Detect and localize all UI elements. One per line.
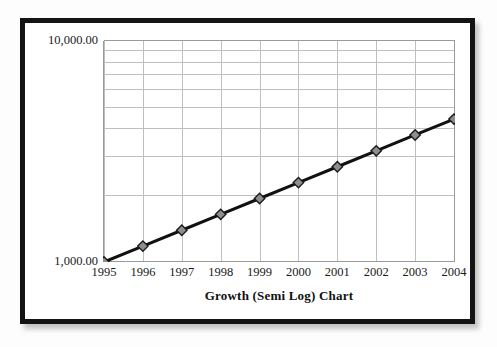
data-point-marker bbox=[449, 114, 455, 124]
chart-title: Growth (Semi Log) Chart bbox=[103, 288, 455, 304]
data-point-marker bbox=[254, 193, 264, 203]
data-line bbox=[104, 119, 454, 262]
x-axis-tick-labels: 1995199619971998199920002001200220032004 bbox=[103, 265, 455, 283]
data-point-marker bbox=[410, 130, 420, 140]
y-axis-tick-label-top: 10,000.00 bbox=[6, 33, 98, 48]
plot-area bbox=[103, 40, 455, 262]
data-point-marker bbox=[215, 209, 225, 219]
data-point-marker bbox=[177, 225, 187, 235]
plot-axis-frame bbox=[104, 41, 455, 262]
minor-gridlines bbox=[103, 51, 455, 196]
data-point-marker bbox=[138, 241, 148, 251]
plot-svg bbox=[103, 40, 455, 262]
x-axis-tick-label: 2004 bbox=[431, 265, 477, 280]
vertical-gridlines bbox=[105, 40, 455, 262]
data-point-marker bbox=[371, 146, 381, 156]
data-point-marker bbox=[332, 162, 342, 172]
data-point-marker bbox=[293, 177, 303, 187]
semi-log-chart: 10,000.00 1,000.00 199519961997199819992… bbox=[0, 0, 497, 347]
chart-screenshot: 10,000.00 1,000.00 199519961997199819992… bbox=[0, 0, 497, 347]
